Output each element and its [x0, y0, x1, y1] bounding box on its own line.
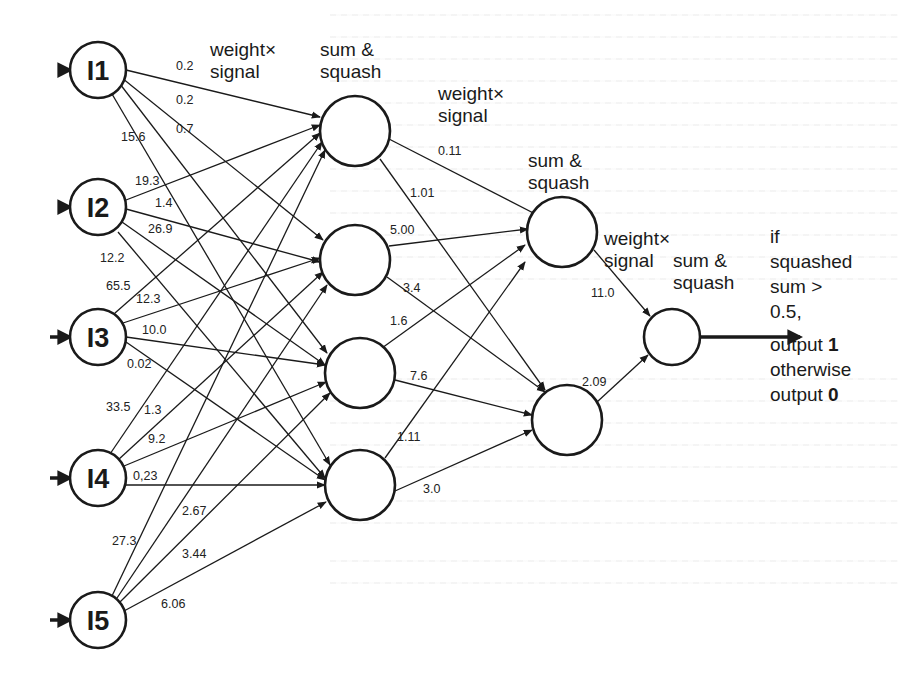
captions: weight× signal sum & squash weight× sign…	[209, 39, 734, 293]
caption-sum-squash: squash	[528, 172, 589, 193]
output-value-zero: 0	[828, 384, 839, 405]
weight-label: 3.0	[423, 482, 440, 496]
weight-label: 65.5	[106, 279, 130, 293]
input-layer: I1 I2 I3 I4 I5	[70, 42, 126, 648]
output-rule-line: output	[770, 334, 828, 355]
caption-weight-signal: weight×	[209, 39, 276, 60]
output-rule-line: 0.5,	[770, 301, 802, 322]
output-rule-line: sum >	[770, 276, 822, 297]
input-label-i3: I3	[87, 323, 110, 353]
weight-label: 2.09	[582, 375, 606, 389]
hidden2-node-2	[532, 385, 602, 455]
output-rule-line: otherwise	[770, 359, 851, 380]
weight-label: 3.44	[182, 547, 206, 561]
weight-label: 1.01	[410, 186, 434, 200]
output-rule-line: squashed	[770, 251, 852, 272]
hidden-node-1	[320, 96, 390, 166]
weight-label: 0.2	[176, 93, 193, 107]
hidden-node-4	[325, 450, 395, 520]
hidden2-node-1	[527, 197, 597, 267]
weight-label: 0.11	[438, 144, 461, 158]
weight-label: 27.3	[112, 534, 136, 548]
weight-label: 11.0	[591, 286, 614, 300]
weight-label: 15.6	[121, 130, 145, 144]
weight-label: 19.3	[135, 174, 159, 188]
weight-label: 0.02	[127, 357, 151, 371]
weight-label: 3.4	[403, 281, 420, 295]
caption-weight-signal: weight×	[603, 228, 670, 249]
input-label-i4: I4	[87, 464, 110, 494]
weight-label: 12.3	[136, 292, 160, 306]
output-rule-text: if squashed sum > 0.5, output 1 otherwis…	[770, 226, 852, 405]
caption-sum-squash: squash	[320, 61, 381, 82]
weight-label: 5.00	[390, 223, 414, 237]
output-value-one: 1	[828, 334, 839, 355]
caption-sum-squash: squash	[673, 272, 734, 293]
hidden-node-3	[325, 338, 395, 408]
weight-label: 9.2	[148, 432, 165, 446]
svg-text:output 1: output 1	[770, 334, 839, 355]
weight-label: 7.6	[410, 369, 427, 383]
weight-label: 1.11	[397, 430, 420, 444]
output-rule-line: if	[770, 226, 780, 247]
weight-label: 1.3	[144, 403, 161, 417]
svg-text:output 0: output 0	[770, 384, 839, 405]
weight-label: 0,23	[133, 469, 157, 483]
weight-label: 6.06	[161, 597, 185, 611]
output-rule-line: output	[770, 384, 828, 405]
weight-label: 0.2	[176, 59, 193, 73]
weight-label: 10.0	[142, 323, 166, 337]
hidden-layer-2	[527, 197, 602, 455]
neural-network-diagram: I1 I2 I3 I4 I5 0.2 0.2 0.7 15.6 19.3 1.4…	[0, 0, 918, 683]
input-label-i5: I5	[87, 606, 110, 636]
input-arrows	[50, 70, 70, 620]
hidden-layer-1	[320, 96, 395, 520]
caption-weight-signal: signal	[438, 105, 488, 126]
weight-label: 1.6	[390, 314, 407, 328]
weight-label: 2.67	[182, 504, 206, 518]
caption-weight-signal: signal	[604, 250, 654, 271]
weight-labels-layer2: 0.11 1.01 5.00 3.4 1.6 7.6 1.11 3.0	[390, 144, 461, 496]
output-node	[644, 309, 700, 365]
input-hidden-edges	[110, 70, 330, 611]
hidden-node-2	[320, 225, 390, 295]
caption-sum-squash: sum &	[673, 250, 727, 271]
input-label-i1: I1	[87, 56, 110, 86]
weight-labels-layer3: 11.0 2.09	[582, 286, 614, 389]
weight-label: 33.5	[106, 400, 130, 414]
weight-label: 0.7	[176, 122, 193, 136]
weight-label: 1.4	[155, 196, 172, 210]
caption-weight-signal: signal	[210, 61, 260, 82]
caption-sum-squash: sum &	[528, 150, 582, 171]
input-label-i2: I2	[87, 193, 110, 223]
caption-sum-squash: sum &	[320, 39, 374, 60]
weight-label: 26.9	[148, 222, 172, 236]
weight-label: 12.2	[100, 251, 124, 265]
caption-weight-signal: weight×	[437, 83, 504, 104]
